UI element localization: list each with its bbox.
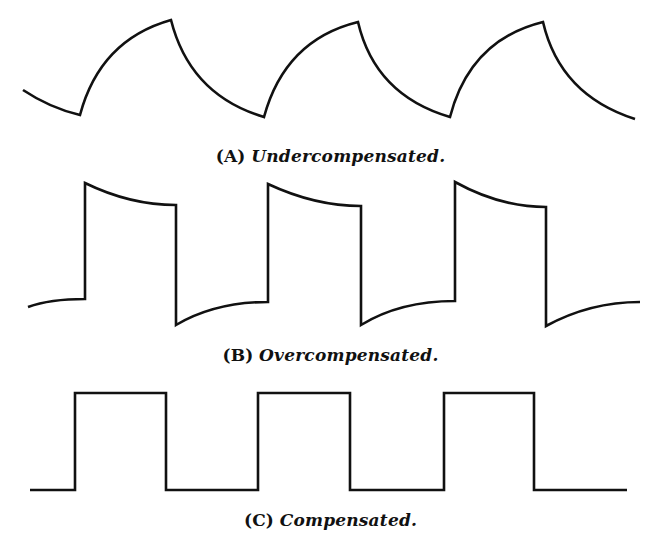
caption-overcompensated: (B) Overcompensated. (0, 345, 661, 365)
caption-label: (B) (222, 345, 253, 365)
waveform-compensated (30, 393, 627, 490)
caption-text: Undercompensated. (251, 146, 445, 166)
waveform-undercompensated (23, 20, 635, 119)
caption-text: Compensated. (280, 510, 417, 530)
caption-label: (A) (216, 146, 246, 166)
caption-text: Overcompensated. (259, 345, 438, 365)
caption-undercompensated: (A) Undercompensated. (0, 146, 661, 166)
waveform-overcompensated (28, 182, 640, 326)
caption-label: (C) (244, 510, 274, 530)
caption-compensated: (C) Compensated. (0, 510, 661, 530)
waveform-figure (0, 0, 661, 544)
